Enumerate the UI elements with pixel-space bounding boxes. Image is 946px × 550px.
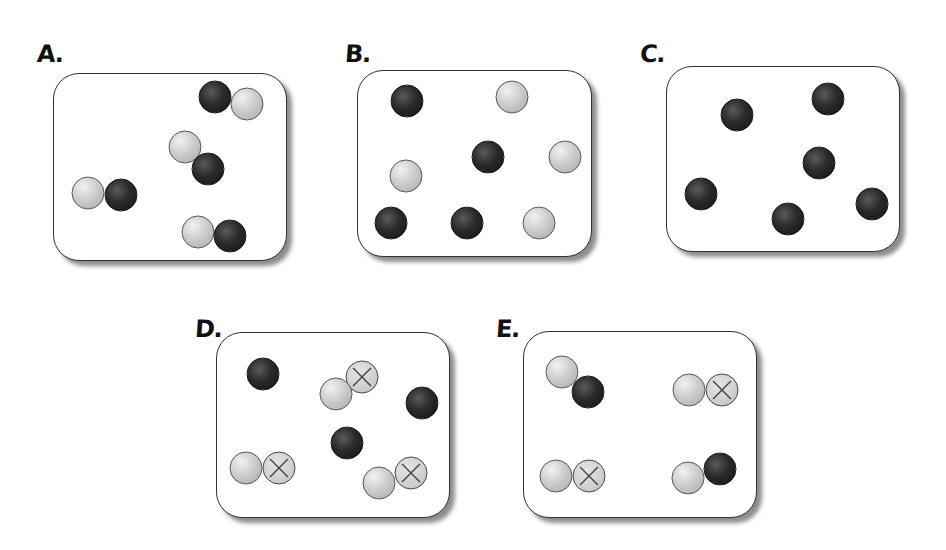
dark-atom-icon (331, 427, 364, 460)
dark-atom-icon (812, 83, 845, 116)
dark-atom-icon (704, 453, 737, 486)
light-atom-icon (320, 378, 353, 411)
dark-atom-icon (856, 188, 889, 221)
light-atom-icon (363, 467, 396, 500)
panel-label-d: D. (194, 315, 223, 343)
dark-atom-icon (472, 141, 505, 174)
dark-atom-icon (451, 207, 484, 240)
dark-atom-icon (685, 178, 718, 211)
dark-atom-icon (105, 179, 138, 212)
light-atom-icon (523, 207, 556, 240)
light-atom-icon (72, 177, 105, 210)
light-atom-icon (540, 460, 573, 493)
dark-atom-icon (721, 99, 754, 132)
crossed-atom-icon (263, 452, 296, 485)
panel-box-d (216, 332, 450, 518)
dark-atom-icon (406, 387, 439, 420)
dark-atom-icon (803, 147, 836, 180)
dark-atom-icon (772, 203, 805, 236)
dark-atom-icon (375, 207, 408, 240)
light-atom-icon (496, 81, 529, 114)
light-atom-icon (549, 141, 582, 174)
light-atom-icon (231, 88, 264, 121)
dark-atom-icon (572, 376, 605, 409)
panel-label-e: E. (495, 315, 520, 343)
panel-label-c: C. (639, 40, 666, 68)
dark-atom-icon (247, 358, 280, 391)
light-atom-icon (673, 374, 706, 407)
crossed-atom-icon (706, 374, 739, 407)
dark-atom-icon (199, 81, 232, 114)
light-atom-icon (230, 452, 263, 485)
crossed-atom-icon (573, 460, 606, 493)
dark-atom-icon (192, 153, 225, 186)
light-atom-icon (390, 160, 423, 193)
panel-label-a: A. (36, 40, 64, 68)
crossed-atom-icon (395, 457, 428, 490)
dark-atom-icon (391, 85, 424, 118)
dark-atom-icon (214, 220, 247, 253)
panel-label-b: B. (344, 40, 371, 68)
light-atom-icon (672, 462, 705, 495)
light-atom-icon (182, 216, 215, 249)
